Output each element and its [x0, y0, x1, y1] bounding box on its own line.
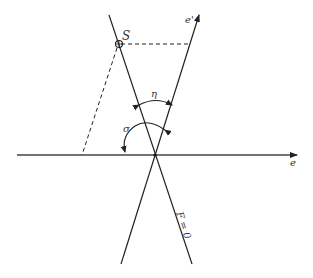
label-s: S [122, 29, 130, 43]
angle-sigma-arc [124, 123, 165, 152]
dashed-projection-diagonal [82, 48, 117, 155]
intersection-point [153, 153, 156, 156]
angle-eta-arc [139, 101, 172, 106]
label-f-zero: F = 0 [174, 209, 194, 241]
label-e-prime: e' [185, 14, 194, 25]
label-eta: η [151, 88, 157, 99]
label-sigma: σ [123, 123, 131, 134]
label-e: e [290, 157, 296, 168]
diagram-canvas: S e' e η σ F = 0 [0, 0, 313, 278]
